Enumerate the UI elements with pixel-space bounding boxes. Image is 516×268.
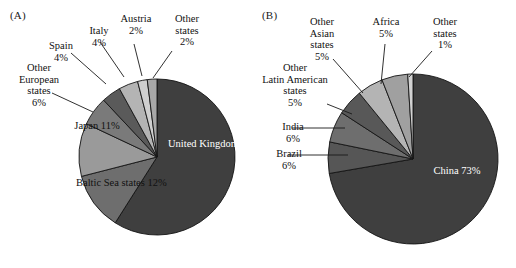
panel-b-tag: (B) [262,9,277,21]
label-other-states-b: Other states 1% [418,16,472,51]
label-china: China 73% [427,165,487,177]
label-japan: Japan 11% [73,120,121,132]
label-united-kingdom: United Kingdom 59% [168,138,236,150]
label-africa: Africa 5% [360,16,412,39]
label-other-asian-states: Other Asian states 5% [294,16,350,62]
label-austria: Austria 2% [110,13,162,36]
panel-a-tag: (A) [10,9,26,21]
pie-chart-figure: (A) (B) Other European states 6% Spain 4… [0,0,516,268]
label-brazil: Brazil 6% [262,148,316,171]
label-baltic-sea-states: Baltic Sea states 12% [76,177,142,189]
label-other-states-a: Other states 2% [161,13,213,48]
label-other-latin-american-states: Other Latin American states 5% [252,62,338,108]
label-other-european-states: Other European states 6% [2,62,76,108]
label-india: India 6% [266,121,320,144]
